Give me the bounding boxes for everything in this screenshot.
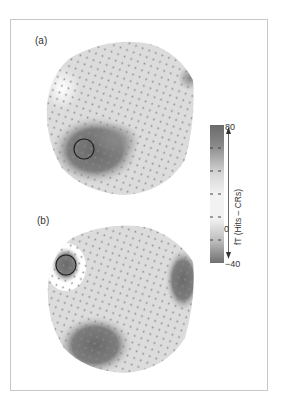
colorbar-min-label: −40: [225, 259, 240, 269]
head-map-b: [40, 215, 201, 380]
colorbar: [210, 125, 231, 263]
figure-canvas: [0, 0, 286, 407]
panel-label-a: (a): [35, 35, 47, 46]
panel-label-b: (b): [37, 215, 49, 226]
colorbar-title: fT (Hits – CRs): [233, 189, 243, 245]
colorbar-max-label: 80: [225, 122, 235, 132]
head-map-a: [40, 35, 202, 200]
colorbar-zero-label: 0: [224, 224, 229, 234]
